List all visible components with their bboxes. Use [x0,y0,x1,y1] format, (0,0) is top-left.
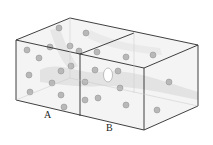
central-void [104,68,113,82]
diagram-canvas: A B [0,0,213,145]
box-label-a: A [44,110,51,120]
box-label-b: B [106,123,113,133]
